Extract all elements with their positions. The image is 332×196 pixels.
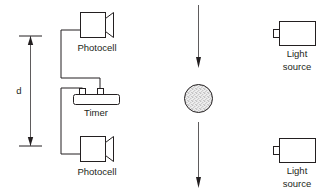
light-source-top: Light source	[274, 22, 316, 73]
light-source-bottom-tab	[274, 147, 280, 155]
light-source-top-body	[280, 22, 316, 46]
dimension-arrowhead-bottom	[28, 137, 33, 146]
photocell-bottom-lens	[106, 137, 114, 162]
photocell-top-wire	[61, 30, 100, 88]
falling-ball	[185, 85, 213, 113]
light-source-top-tab	[274, 30, 280, 38]
figure-canvas: d Photocell Timer Photocell	[0, 0, 332, 196]
arrow-lower-head	[196, 177, 201, 188]
apparatus-diagram: d Photocell Timer Photocell	[0, 0, 332, 196]
timer-terminal-left	[80, 89, 86, 95]
falling-ball-circle	[185, 85, 213, 113]
photocell-top: Photocell	[61, 13, 117, 89]
dimension-arrowhead-top	[28, 36, 33, 45]
arrow-upper-head	[196, 57, 201, 68]
photocell-top-body	[81, 13, 106, 38]
photocell-top-lens	[106, 13, 114, 38]
photocell-bottom-body	[81, 137, 106, 162]
light-source-bottom-label-line1: Light	[287, 165, 308, 176]
fall-direction-arrow-upper	[196, 5, 201, 68]
light-source-top-label-line1: Light	[287, 48, 308, 59]
dimension-label-d: d	[16, 85, 21, 96]
light-source-bottom: Light source	[274, 139, 316, 190]
light-source-top-label-line2: source	[283, 61, 312, 72]
light-source-bottom-body	[280, 139, 316, 163]
light-source-bottom-label-line2: source	[283, 178, 312, 189]
timer-terminal-right	[98, 89, 104, 95]
timer-label: Timer	[84, 107, 108, 118]
timer-body	[74, 95, 120, 105]
fall-direction-arrow-lower	[196, 122, 201, 188]
dimension-line-d: d	[16, 36, 42, 146]
timer: Timer	[74, 89, 120, 119]
photocell-top-label: Photocell	[77, 42, 116, 53]
photocell-bottom-label: Photocell	[77, 166, 116, 177]
